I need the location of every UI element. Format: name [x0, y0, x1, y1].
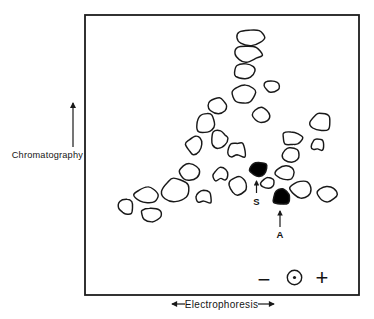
spot-a [273, 189, 290, 205]
spot [179, 164, 199, 181]
spot [213, 167, 228, 181]
spot [275, 166, 294, 180]
spot [283, 132, 303, 145]
electrophoresis-axis-label: Electrophoresis [185, 299, 258, 310]
spot [228, 143, 246, 158]
spot [229, 177, 246, 196]
spot [261, 177, 274, 188]
spot [282, 148, 299, 163]
spot-s-label: S [253, 196, 259, 207]
negative-pole-label: − [258, 267, 271, 292]
spot [317, 186, 337, 201]
spot [208, 98, 227, 114]
spot [234, 64, 255, 79]
origin-dot [293, 276, 296, 279]
spot [237, 30, 265, 46]
spot [141, 208, 161, 222]
spot [196, 190, 211, 203]
spot-a-label: A [277, 229, 284, 240]
origin-symbol-icon [287, 270, 301, 284]
figure-canvas: Chromatography S A − + Electrophoresis [0, 0, 374, 319]
spot [212, 131, 228, 149]
spot [197, 114, 215, 133]
spot [311, 139, 323, 150]
spot [310, 113, 330, 130]
spot [252, 107, 270, 122]
spot [290, 181, 311, 198]
spot [118, 199, 132, 214]
spot [235, 46, 263, 62]
spot [232, 85, 256, 103]
spots-layer [118, 30, 337, 222]
spot [185, 136, 201, 155]
spot [264, 81, 279, 92]
plot-box [85, 15, 359, 295]
spot [134, 187, 159, 203]
chromatography-axis-label: Chromatography [12, 150, 83, 160]
figure-root: Chromatography S A − + Electrophoresis [0, 0, 374, 319]
positive-pole-label: + [316, 265, 329, 290]
spot-s [249, 163, 267, 177]
spot [161, 178, 188, 202]
